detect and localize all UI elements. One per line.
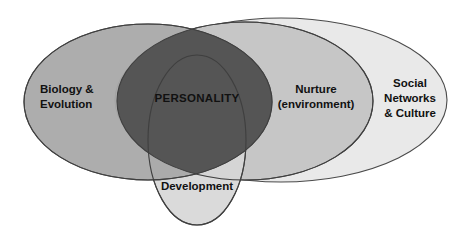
label-development: Development xyxy=(161,180,233,192)
venn-diagram-canvas: Biology & Evolution PERSONALITY Nurture … xyxy=(0,0,456,241)
label-biology-evolution-line-1: Biology & xyxy=(40,83,94,95)
label-nurture-line-1: Nurture xyxy=(295,83,337,95)
label-personality: PERSONALITY xyxy=(154,92,239,104)
label-biology-evolution-line-2: Evolution xyxy=(40,98,92,110)
label-nurture-line-2: (environment) xyxy=(278,98,355,110)
label-social-line-2: Networks xyxy=(384,92,436,104)
label-social-line-1: Social xyxy=(393,77,427,89)
label-social-line-3: & Culture xyxy=(384,107,436,119)
venn-diagram: Biology & Evolution PERSONALITY Nurture … xyxy=(0,0,456,241)
